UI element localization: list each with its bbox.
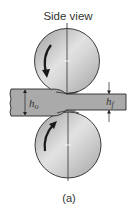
diagram-title: Side view (43, 10, 93, 22)
rolling-diagram: Side view ho hf (0, 0, 135, 216)
figure-caption: (a) (62, 192, 75, 204)
bottom-roll (35, 112, 101, 181)
top-roll (35, 23, 100, 94)
